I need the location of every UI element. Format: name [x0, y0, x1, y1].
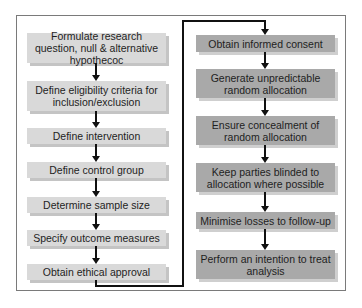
step-informed-consent: Obtain informed consent — [196, 35, 335, 52]
step-determine-sample-size: Determine sample size — [27, 197, 166, 213]
step-generate-allocation: Generate unpredictable random allocation — [196, 69, 335, 98]
step-intention-to-treat: Perform an intention to treat analysis — [196, 250, 335, 279]
step-specify-outcomes: Specify outcome measures — [27, 230, 166, 246]
step-define-eligibility: Define eligibility criteria for inclusio… — [27, 81, 166, 111]
step-minimise-losses: Minimise losses to follow-up — [196, 212, 335, 229]
step-ethical-approval: Obtain ethical approval — [27, 264, 166, 280]
step-ensure-concealment: Ensure concealment of random allocation — [196, 116, 335, 145]
step-formulate-question: Formulate research question, null & alte… — [27, 33, 166, 63]
connector-line — [182, 20, 184, 287]
step-define-control-group: Define control group — [27, 162, 166, 178]
connector-line — [95, 285, 184, 287]
step-define-intervention: Define intervention — [27, 128, 166, 144]
step-keep-blinded: Keep parties blinded to allocation where… — [196, 163, 335, 192]
connector-line — [182, 20, 266, 22]
